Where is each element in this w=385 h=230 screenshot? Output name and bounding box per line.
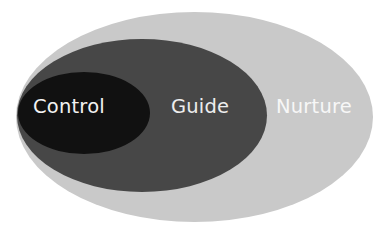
guide-label: Guide: [171, 97, 229, 117]
nurture-label: Nurture: [276, 97, 352, 117]
control-label: Control: [33, 97, 105, 117]
